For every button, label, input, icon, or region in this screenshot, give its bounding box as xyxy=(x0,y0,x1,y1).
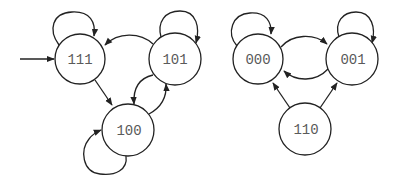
state-node-100: 100 xyxy=(102,104,154,156)
state-label: 001 xyxy=(340,52,365,68)
state-node-000: 000 xyxy=(233,34,283,84)
state-node-001: 001 xyxy=(326,33,378,85)
edge-101-to-100 xyxy=(134,75,153,104)
state-node-101: 101 xyxy=(149,33,201,85)
edge-111-to-100 xyxy=(95,80,112,105)
state-node-111: 111 xyxy=(55,34,105,84)
edge-001-to-000 xyxy=(284,69,328,79)
state-diagram: 111 101 100 000 001 110 xyxy=(0,0,397,184)
state-label: 111 xyxy=(67,52,92,68)
edge-100-to-101 xyxy=(149,84,166,114)
state-label: 000 xyxy=(245,52,270,68)
edge-110-to-001 xyxy=(320,83,337,108)
state-label: 100 xyxy=(116,123,141,139)
edge-000-to-001 xyxy=(281,36,327,47)
edge-110-to-000 xyxy=(273,83,290,108)
state-label: 101 xyxy=(162,52,187,68)
edge-101-to-111 xyxy=(105,35,153,45)
state-label: 110 xyxy=(293,122,318,138)
state-node-110: 110 xyxy=(279,103,331,155)
